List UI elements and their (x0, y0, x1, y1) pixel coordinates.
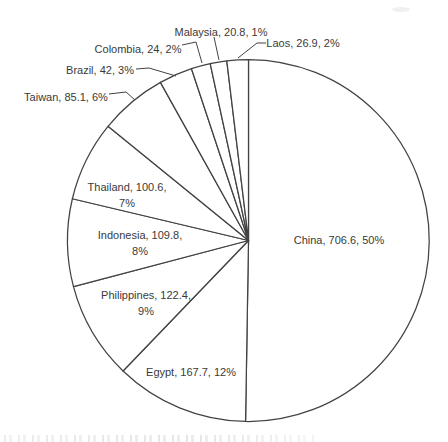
pie-slice-label-philippines-line1: Philippines, 122.4, (101, 287, 191, 303)
scan-smudge (392, 7, 410, 12)
pie-chart-figure: China, 706.6, 50%Egypt, 167.7, 12%Philip… (0, 0, 448, 442)
pie-slice-label-taiwan: Taiwan, 85.1, 6% (24, 89, 108, 105)
pie-slice-label-indonesia-line2: 8% (98, 243, 182, 259)
leader-line-colombia (182, 42, 202, 63)
leader-line-laos (238, 43, 266, 58)
pie-slice-label-malaysia: Malaysia, 20.8, 1% (175, 24, 268, 40)
pie-slice-label-egypt-line1: Egypt, 167.7, 12% (146, 364, 236, 380)
pie-slice-label-philippines-line2: 9% (101, 303, 191, 319)
pie-slice-label-egypt: Egypt, 167.7, 12% (146, 364, 236, 380)
pie-slice-label-thailand: Thailand, 100.6,7% (88, 179, 167, 211)
leader-line-taiwan (109, 92, 135, 100)
leader-line-malaysia (214, 37, 219, 60)
pie-slice-label-laos: Laos, 26.9, 2% (266, 35, 339, 51)
pie-slice-label-brazil-line1: Brazil, 42, 3% (66, 62, 134, 78)
pie-slice-label-indonesia-line1: Indonesia, 109.8, (98, 227, 182, 243)
pie-slice-label-malaysia-line1: Malaysia, 20.8, 1% (175, 24, 268, 40)
pie-slice-label-taiwan-line1: Taiwan, 85.1, 6% (24, 89, 108, 105)
leader-line-brazil (136, 68, 176, 76)
pie-slice-label-philippines: Philippines, 122.4,9% (101, 287, 191, 319)
pie-slice-label-colombia: Colombia, 24, 2% (95, 41, 182, 57)
pie-slice-label-laos-line1: Laos, 26.9, 2% (266, 35, 339, 51)
pie-slice-label-china-line1: China, 706.6, 50% (294, 232, 385, 248)
pie-slice-label-colombia-line1: Colombia, 24, 2% (95, 41, 182, 57)
pie-slice-label-china: China, 706.6, 50% (294, 232, 385, 248)
cutoff-caption-fragment (4, 435, 314, 442)
pie-slice-label-thailand-line2: 7% (88, 195, 167, 211)
pie-slice-label-thailand-line1: Thailand, 100.6, (88, 179, 167, 195)
pie-slice-label-indonesia: Indonesia, 109.8,8% (98, 227, 182, 259)
pie-slice-label-brazil: Brazil, 42, 3% (66, 62, 134, 78)
